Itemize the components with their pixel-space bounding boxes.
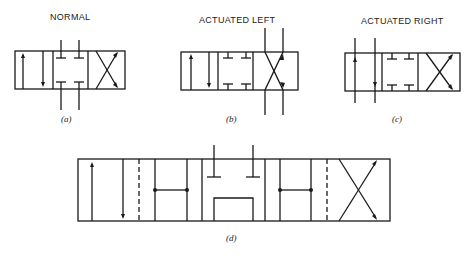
valve-symbol-d: [78, 145, 390, 221]
valve-symbol-b: [181, 28, 298, 115]
valve-diagram-canvas: [0, 0, 465, 257]
valve-symbol-c: [345, 38, 460, 103]
valve-symbol-a: [15, 40, 125, 110]
